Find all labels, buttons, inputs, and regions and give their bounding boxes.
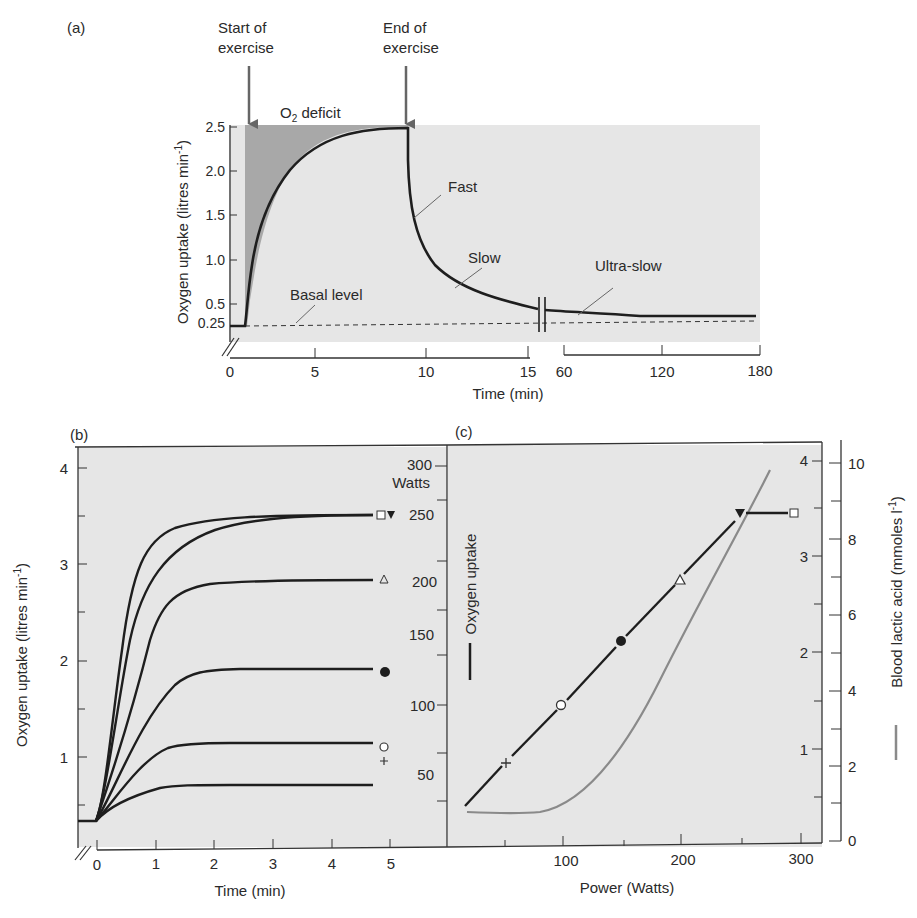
y-axis-label: Oxygen uptake (litres min-1)	[173, 140, 191, 324]
watts-tick: 100	[410, 697, 435, 714]
y-axis-label: Oxygen uptake (litres min-1)	[12, 563, 30, 747]
xtick: 15	[520, 363, 537, 380]
filled-circle-marker-icon	[616, 636, 626, 646]
ultra-slow-label: Ultra-slow	[595, 257, 662, 274]
open-circle-marker-icon	[380, 743, 388, 751]
plot-bg	[229, 125, 760, 342]
lactate-tick: 6	[848, 606, 856, 623]
ytick: 0.25	[198, 315, 225, 331]
watts-tick: 150	[409, 626, 434, 643]
xtick: 180	[747, 362, 772, 379]
panel-a: (a) 2.5 2.0 1.5 1.0 0.5 0.25 Oxygen upta…	[67, 19, 773, 402]
xtick: 100	[553, 852, 578, 869]
end-label: End of	[383, 19, 427, 36]
watts-tick: 50	[417, 766, 434, 783]
o2-tick: 1	[800, 741, 808, 758]
lactate-tick: 10	[848, 455, 865, 472]
panel-c: (c) 4 3 2 1	[447, 423, 905, 896]
ytick: 4	[60, 460, 68, 477]
lactate-tick: 0	[848, 832, 856, 849]
filled-circle-marker-icon	[380, 667, 390, 677]
slow-label: Slow	[468, 249, 501, 266]
xtick: 4	[328, 855, 336, 872]
o2-tick: 2	[800, 644, 808, 661]
ytick: 1.5	[206, 207, 226, 223]
xtick: 3	[269, 855, 277, 872]
fast-label: Fast	[448, 178, 478, 195]
xtick: 2	[210, 855, 218, 872]
square-marker-icon	[377, 511, 385, 519]
xtick: 1	[152, 855, 160, 872]
o2-deficit-label: O2 deficit	[280, 104, 341, 124]
xtick: 5	[387, 855, 395, 872]
ytick: 3	[60, 556, 68, 573]
xtick: 10	[418, 363, 435, 380]
lactate-tick: 2	[848, 758, 856, 775]
ytick: 2.5	[206, 119, 226, 135]
panel-c-label: (c)	[455, 423, 473, 440]
open-circle-marker-icon	[557, 701, 566, 710]
o2-tick: 3	[800, 548, 808, 565]
ytick: 2	[60, 652, 68, 669]
watts-tick: 200	[412, 573, 437, 590]
ytick: 0.5	[206, 296, 226, 312]
watts-tick: 250	[409, 506, 434, 523]
ytick: 1.0	[206, 252, 226, 268]
xtick: 300	[788, 850, 813, 867]
lactate-tick: 8	[848, 531, 856, 548]
watts-tick: 300	[407, 456, 432, 473]
svg-text:exercise: exercise	[383, 39, 439, 56]
lactate-legend-label: Blood lactic acid (mmoles l-1)	[887, 496, 905, 687]
svg-text:exercise: exercise	[218, 39, 274, 56]
basal-label: Basal level	[290, 286, 363, 303]
xtick: 0	[93, 856, 101, 873]
lactate-tick: 4	[848, 682, 856, 699]
figure: (a) 2.5 2.0 1.5 1.0 0.5 0.25 Oxygen upta…	[0, 0, 917, 918]
xtick: 120	[649, 363, 674, 380]
xtick: 0	[226, 363, 234, 380]
xtick: 5	[311, 363, 319, 380]
xtick: 200	[670, 851, 695, 868]
square-marker-icon	[790, 509, 798, 517]
start-label: Start of	[218, 19, 267, 36]
xtick: 60	[556, 363, 573, 380]
watts-label: Watts	[392, 474, 430, 491]
ytick: 1	[60, 749, 68, 766]
plot-bg	[448, 445, 822, 847]
plot-bg	[78, 447, 447, 847]
panel-b-label: (b)	[70, 426, 88, 443]
x-axis-label: Power (Watts)	[580, 879, 674, 896]
x-axis-label: Time (min)	[214, 882, 285, 899]
panel-b: (b) 4 3 2 1 Oxygen uptake (litres min-1)	[12, 426, 447, 899]
o2-legend-label: Oxygen uptake	[462, 534, 479, 635]
panel-a-label: (a)	[67, 19, 85, 36]
o2-tick: 4	[800, 452, 808, 469]
ytick: 2.0	[206, 163, 226, 179]
x-axis-label: Time (min)	[472, 385, 543, 402]
